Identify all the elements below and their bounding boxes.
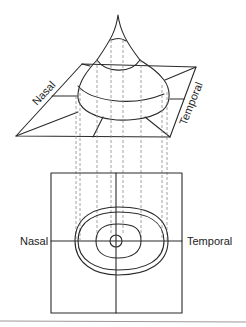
label-temporal-2d: Temporal — [187, 235, 232, 247]
label-nasal-2d: Nasal — [20, 235, 48, 247]
hill-outline — [78, 15, 169, 120]
label-nasal-3d: Nasal — [30, 79, 58, 108]
bottom-rule — [0, 321, 246, 322]
isopter-map-2d: Nasal Temporal — [20, 173, 232, 313]
hill-of-vision-3d: Nasal Temporal — [16, 15, 205, 137]
label-temporal-3d: Temporal — [177, 80, 205, 126]
hill-of-vision-diagram: Nasal Temporal Nasal Temporal — [0, 0, 246, 327]
